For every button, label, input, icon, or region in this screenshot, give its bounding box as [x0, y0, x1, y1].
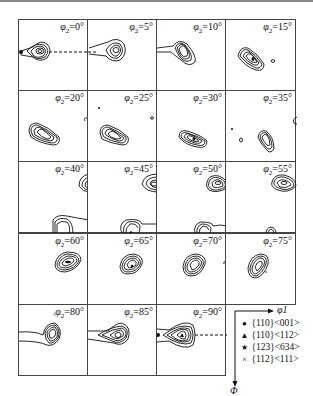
- section-phi2-35: φ2=35°: [225, 90, 296, 162]
- triangle-icon: ▲: [240, 331, 249, 340]
- section-label: φ2=50°: [193, 163, 222, 177]
- section-phi2-15: φ2=15°: [225, 19, 296, 91]
- section-phi2-70: φ2=70°: [156, 233, 226, 305]
- section-label: φ2=15°: [263, 21, 292, 35]
- section-label: φ2=85°: [124, 306, 153, 320]
- section-label: φ2=5°: [129, 21, 153, 35]
- section-label: φ2=10°: [193, 21, 222, 35]
- top-rule: [0, 0, 313, 2]
- section-label: φ2=70°: [193, 235, 222, 249]
- section-phi2-40: φ2=40°: [18, 161, 88, 233]
- section-phi2-90: φ2=90°: [156, 304, 226, 376]
- section-label: φ2=0°: [60, 21, 84, 35]
- legend-label: {112}<111>: [251, 354, 298, 364]
- phi1-axis-label: φ1: [277, 304, 288, 315]
- section-phi2-0: φ2=0°: [18, 19, 88, 91]
- legend-item-brass: ▲ {110}<112>: [240, 330, 299, 340]
- section-phi2-50: φ2=50°: [156, 161, 226, 233]
- section-phi2-30: φ2=30°: [156, 90, 226, 162]
- section-phi2-60: φ2=60°: [18, 233, 88, 305]
- section-label: φ2=60°: [55, 235, 84, 249]
- section-label: φ2=30°: [193, 92, 222, 106]
- section-label: φ2=75°: [263, 235, 292, 249]
- section-phi2-5: φ2=5°: [87, 19, 157, 91]
- section-label: φ2=65°: [124, 235, 153, 249]
- section-label: φ2=55°: [263, 163, 292, 177]
- section-label: φ2=90°: [193, 306, 222, 320]
- section-label: φ2=35°: [263, 92, 292, 106]
- section-label: φ2=20°: [55, 92, 84, 106]
- legend-item-s: ★ {123}<634>: [240, 342, 300, 352]
- section-phi2-55: φ2=55°: [225, 161, 296, 233]
- cross-icon: ×: [240, 355, 249, 364]
- section-phi2-65: φ2=65°: [87, 233, 157, 305]
- section-phi2-20: φ2=20°: [18, 90, 88, 162]
- legend: φ1 Φ ● {110}<001> ▲ {110}<112> ★ {123}<6…: [230, 308, 313, 392]
- section-label: φ2=25°: [124, 92, 153, 106]
- circle-icon: ●: [240, 319, 249, 328]
- section-phi2-25: φ2=25°: [87, 90, 157, 162]
- section-phi2-85: φ2=85°: [87, 304, 157, 376]
- section-phi2-80: ^ φ2=80°: [18, 304, 88, 376]
- legend-label: {123}<634>: [251, 342, 299, 352]
- section-label: φ2=80°: [55, 306, 84, 320]
- legend-item-copper: × {112}<111>: [240, 354, 299, 364]
- Phi-axis-label: Φ: [230, 385, 238, 396]
- legend-label: {110}<112>: [251, 330, 299, 340]
- star-icon: ★: [240, 343, 249, 352]
- section-phi2-45: φ2=45°: [87, 161, 157, 233]
- section-label: φ2=40°: [55, 163, 84, 177]
- section-phi2-10: φ2=10°: [156, 19, 226, 91]
- legend-label: {110}<001>: [251, 318, 299, 328]
- section-label: φ2=45°: [124, 163, 153, 177]
- legend-item-goss: ● {110}<001>: [240, 318, 299, 328]
- section-phi2-75: φ2=75°: [225, 233, 296, 305]
